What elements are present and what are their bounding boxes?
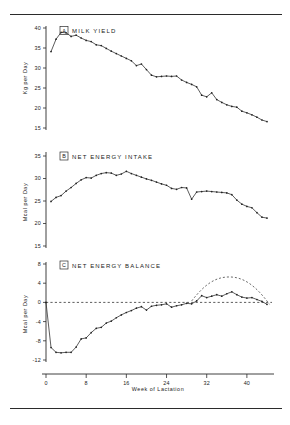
y-tick-label: -12 bbox=[33, 357, 41, 363]
panel-b-title: NET ENERGY INTAKE bbox=[72, 154, 153, 160]
y-tick-label: 20 bbox=[35, 105, 41, 111]
panel-a-plot: 152025303540 A MILK YIELD Kg per Day bbox=[0, 22, 290, 142]
x-tick-label: 16 bbox=[123, 380, 129, 386]
panel-net-energy-balance: -12-8-4048 0816243240 C NET ENERGY BALAN… bbox=[0, 258, 290, 406]
panel-milk-yield: 152025303540 A MILK YIELD Kg per Day bbox=[0, 22, 290, 142]
panel-b-tag: B bbox=[62, 153, 66, 159]
y-tick-label: 8 bbox=[38, 261, 41, 267]
y-tick-label: 40 bbox=[35, 25, 41, 31]
x-tick-label: 32 bbox=[204, 380, 210, 386]
y-tick-label: 25 bbox=[35, 85, 41, 91]
y-tick-label: -8 bbox=[36, 338, 41, 344]
panel-net-energy-intake: 1520253035 B NET ENERGY INTAKE Mcal per … bbox=[0, 148, 290, 260]
panel-a-y-ticks: 152025303540 bbox=[35, 25, 46, 131]
panel-c-x-ticks: 0816243240 bbox=[44, 374, 250, 386]
panel-a-title-group: A MILK YIELD bbox=[60, 27, 116, 35]
panel-c-title-group: C NET ENERGY BALANCE bbox=[60, 261, 161, 269]
y-tick-label: 30 bbox=[35, 175, 41, 181]
panel-b-title-group: B NET ENERGY INTAKE bbox=[60, 152, 153, 160]
y-tick-label: 20 bbox=[35, 220, 41, 226]
y-tick-label: 0 bbox=[38, 299, 41, 305]
y-tick-label: 4 bbox=[38, 280, 41, 286]
y-tick-label: -4 bbox=[36, 319, 41, 325]
y-tick-label: 35 bbox=[35, 153, 41, 159]
panel-b-ylabel: Mcal per Day bbox=[22, 183, 28, 221]
panel-c-xlabel: Week of Lactation bbox=[132, 386, 184, 392]
panel-a-tag: A bbox=[62, 28, 66, 34]
top-rule bbox=[10, 14, 282, 15]
panel-c-y-ticks: -12-8-4048 bbox=[33, 261, 46, 363]
x-tick-label: 24 bbox=[163, 380, 169, 386]
panel-b-plot: 1520253035 B NET ENERGY INTAKE Mcal per … bbox=[0, 148, 290, 260]
panel-b-y-ticks: 1520253035 bbox=[35, 153, 46, 249]
panel-a-title: MILK YIELD bbox=[72, 28, 116, 34]
y-tick-label: 35 bbox=[35, 45, 41, 51]
panel-b-series bbox=[50, 170, 268, 219]
y-tick-label: 30 bbox=[35, 65, 41, 71]
panel-c-ylabel: Mcal per Day bbox=[22, 295, 28, 333]
y-tick-label: 15 bbox=[35, 243, 41, 249]
panel-c-tag: C bbox=[62, 262, 66, 268]
bottom-rule bbox=[10, 408, 282, 409]
x-tick-label: 8 bbox=[85, 380, 88, 386]
panel-c-plot: -12-8-4048 0816243240 C NET ENERGY BALAN… bbox=[0, 258, 290, 406]
panel-c-title: NET ENERGY BALANCE bbox=[72, 263, 161, 269]
panel-a-ylabel: Kg per Day bbox=[22, 62, 28, 94]
panel-c-series bbox=[45, 291, 268, 354]
x-tick-label: 40 bbox=[244, 380, 250, 386]
x-tick-label: 0 bbox=[44, 380, 47, 386]
panel-a-series bbox=[50, 32, 268, 123]
lactation-energy-figure: 152025303540 A MILK YIELD Kg per Day 152… bbox=[0, 0, 290, 425]
y-tick-label: 25 bbox=[35, 198, 41, 204]
y-tick-label: 15 bbox=[35, 125, 41, 131]
